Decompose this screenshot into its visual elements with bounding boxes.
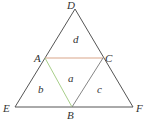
vertex-label-E: E — [2, 102, 10, 114]
vertex-label-A: A — [33, 52, 41, 64]
region-label-d: d — [73, 33, 79, 45]
region-label-c: c — [97, 83, 102, 95]
region-label-b: b — [38, 83, 44, 95]
region-label-a: a — [68, 72, 74, 84]
vertex-label-D: D — [66, 0, 75, 11]
vertex-label-C: C — [105, 52, 113, 64]
vertex-label-F: F — [135, 102, 143, 114]
vertex-label-B: B — [67, 109, 74, 121]
triangle-diagram: D A C E B F d a b c — [0, 0, 150, 121]
